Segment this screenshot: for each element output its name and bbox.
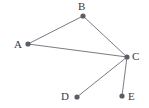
graph-node-label-e: E [128,91,135,102]
graph-node-label-a: A [14,39,22,50]
graph-canvas [0,0,149,108]
edge-layer [28,16,127,97]
graph-node-label-c: C [132,51,139,62]
graph-node-b [80,13,85,18]
graph-node-a [25,41,30,46]
graph-edge-a-b [28,16,83,44]
graph-edge-c-d [77,57,127,97]
graph-node-d [74,94,79,99]
graph-edge-a-c [28,44,127,57]
graph-node-label-d: D [61,91,69,102]
graph-node-c [124,54,129,59]
graph-diagram: ABCDE [0,0,149,108]
node-layer [25,13,129,99]
graph-node-label-b: B [78,1,85,12]
graph-edge-b-c [83,16,127,57]
graph-edge-c-e [122,57,127,96]
graph-node-e [119,93,124,98]
